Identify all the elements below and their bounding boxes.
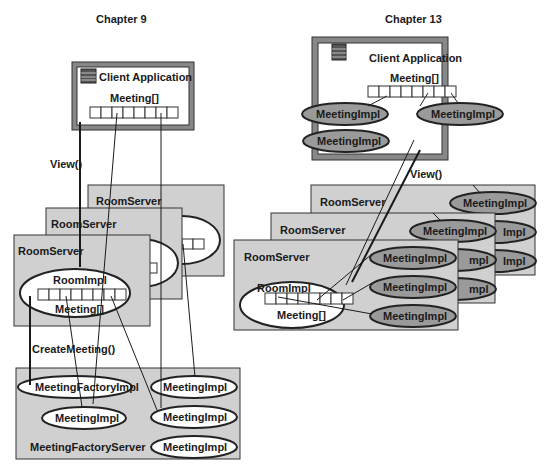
array-cell xyxy=(112,107,123,118)
chapter-13-title: Chapter 13 xyxy=(385,13,442,25)
meeting-array xyxy=(90,107,178,118)
array-cell xyxy=(90,107,101,118)
client-application-label: Client Application xyxy=(99,71,192,83)
meeting-impl: MeetingImpl xyxy=(163,411,227,423)
meeting-impl: MeetingImpl xyxy=(383,281,447,293)
array-cell xyxy=(60,289,71,300)
room-server-label: RoomServer xyxy=(96,195,162,207)
meeting-impl: Impl xyxy=(503,255,526,267)
array-cell xyxy=(331,293,342,304)
meeting-impl: MeetingImpl xyxy=(383,310,447,322)
room-server-label: RoomServer xyxy=(320,196,386,208)
array-cell xyxy=(379,86,390,97)
meeting-impl: MeetingImpl xyxy=(55,412,119,424)
meeting-impl: MeetingImpl xyxy=(163,381,227,393)
meeting-impl: MeetingImpl xyxy=(316,108,380,120)
array-cell xyxy=(167,107,178,118)
array-cell xyxy=(38,289,49,300)
chapter-9-title: Chapter 9 xyxy=(96,13,147,25)
array-cell xyxy=(390,86,401,97)
room-meeting-array-label: Meeting[] xyxy=(55,303,104,315)
array-cell xyxy=(104,289,115,300)
room-server-label: RoomServer xyxy=(244,251,310,263)
array-cell xyxy=(71,289,82,300)
meeting-impl: MeetingImpl xyxy=(163,441,227,453)
meeting-factory-server: MeetingFactoryImpl MeetingImpl MeetingIm… xyxy=(16,368,240,459)
array-cell xyxy=(423,86,434,97)
room-meeting-array xyxy=(38,289,126,300)
room-impl-label: RoomImpl xyxy=(257,282,311,294)
array-cell xyxy=(134,107,145,118)
room-server-label: RoomServer xyxy=(18,245,84,257)
array-cell xyxy=(412,86,423,97)
room-impl-label: RoomImpl xyxy=(53,274,107,286)
array-cell xyxy=(101,107,112,118)
architecture-diagram: Chapter 9 Client Application Meeting[] R… xyxy=(0,0,550,472)
meeting-factory-server-label: MeetingFactoryServer xyxy=(30,441,146,453)
window-icon xyxy=(81,69,96,83)
meeting-impl: MeetingImpl xyxy=(317,135,381,147)
array-cell xyxy=(49,289,60,300)
meeting-impl: MeetingImpl xyxy=(431,108,495,120)
array-cell xyxy=(434,86,445,97)
right-client-application: Client Application Meeting[] MeetingImpl… xyxy=(302,37,503,160)
array-cell xyxy=(115,289,126,300)
meeting-impl: MeetingImpl xyxy=(383,252,447,264)
array-cell xyxy=(145,107,156,118)
meeting-array xyxy=(368,86,456,97)
window-icon xyxy=(332,44,346,60)
left-room-server-front: RoomServer RoomImpl Meeting[] xyxy=(14,235,150,326)
client-application-label: Client Application xyxy=(369,52,462,64)
array-cell xyxy=(320,293,331,304)
view-call-label: View() xyxy=(410,168,443,180)
room-meeting-array-label: Meeting[] xyxy=(277,309,326,321)
room-server-label: RoomServer xyxy=(280,224,346,236)
array-cell xyxy=(82,289,93,300)
array-cell xyxy=(265,293,276,304)
meeting-impl: mpl xyxy=(469,283,489,295)
array-cell xyxy=(445,86,456,97)
meeting-impl: mpl xyxy=(469,254,489,266)
meeting-array-label: Meeting[] xyxy=(110,92,159,104)
view-call-label: View() xyxy=(50,158,83,170)
meeting-impl: MeetingImpl xyxy=(463,197,527,209)
array-cell xyxy=(368,86,379,97)
meeting-factory-impl: MeetingFactoryImpl xyxy=(35,381,139,393)
meeting-impl: Impl xyxy=(503,226,526,238)
meeting-impl: MeetingImpl xyxy=(423,225,487,237)
meeting-array-label: Meeting[] xyxy=(390,72,439,84)
array-cell xyxy=(401,86,412,97)
array-cell xyxy=(123,107,134,118)
create-meeting-call-label: CreateMeeting() xyxy=(32,343,115,355)
left-client-application: Client Application Meeting[] xyxy=(72,62,194,130)
